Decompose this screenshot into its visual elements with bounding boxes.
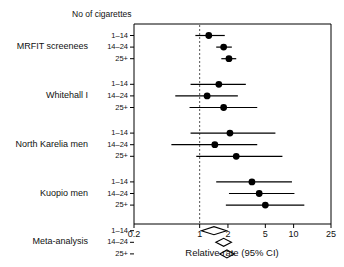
x-tick-label: 25	[326, 229, 336, 239]
summary-diamond	[216, 238, 232, 246]
point-estimate-marker	[215, 81, 222, 88]
point-estimate-marker	[226, 55, 233, 62]
point-estimate-marker	[227, 130, 234, 137]
point-estimate-marker	[249, 179, 256, 186]
x-tick-label: 5	[263, 229, 268, 239]
point-estimate-marker	[233, 153, 240, 160]
point-estimate-marker	[256, 190, 263, 197]
point-estimate-marker	[211, 141, 218, 148]
x-axis-title: Relative rate (95% CI)	[185, 247, 278, 258]
x-tick-label: 1	[197, 229, 202, 239]
point-estimate-marker	[220, 104, 227, 111]
x-tick-label: 0.2	[128, 229, 141, 239]
forest-plot-canvas	[0, 0, 344, 267]
point-estimate-marker	[262, 202, 269, 209]
summary-diamond	[201, 227, 226, 235]
x-tick-label: 2	[225, 229, 230, 239]
forest-plot-figure: No of cigarettes 1–1414–2425+1–1414–2425…	[0, 0, 344, 267]
x-tick-label: 10	[289, 229, 299, 239]
point-estimate-marker	[205, 32, 212, 39]
point-estimate-marker	[220, 44, 227, 51]
point-estimate-marker	[204, 93, 211, 100]
